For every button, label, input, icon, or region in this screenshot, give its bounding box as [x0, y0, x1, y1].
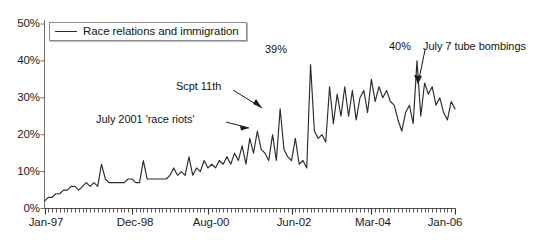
y-tick-label-50: 50%	[2, 17, 40, 29]
x-tick-label-jan-06: Jan-06	[412, 216, 478, 228]
race-riots-arrow-head	[240, 126, 249, 131]
chart-legend: Race relations and immigration	[49, 22, 247, 41]
x-tick-label-jan-97: Jan-97	[13, 216, 79, 228]
x-tick-label-jun-02: Jun-02	[261, 216, 327, 228]
y-tick-label-10: 10%	[2, 165, 40, 177]
series-group	[45, 61, 456, 201]
annotation-sept-11: Scpt 11th	[176, 80, 221, 92]
y-tick-label-40: 40%	[2, 54, 40, 66]
legend-line-swatch	[55, 31, 77, 32]
x-tick-label-dec-98: Dec-98	[102, 216, 168, 228]
annotation-tube-bombings: July 7 tube bombings	[423, 40, 526, 52]
y-tick-label-20: 20%	[2, 128, 40, 140]
annotation-race-riots: July 2001 'race riots'	[96, 113, 194, 125]
series-line-race-relations-and-immigration	[45, 61, 456, 201]
y-axis-ticks	[41, 24, 45, 209]
peak-label-39: 39%	[265, 43, 287, 55]
peak-label-40: 40%	[389, 40, 411, 52]
annotation-arrows	[226, 50, 425, 131]
y-tick-label-0: 0%	[2, 202, 40, 214]
legend-label: Race relations and immigration	[83, 25, 239, 37]
x-axis-ticks	[46, 209, 456, 215]
sept11-arrow-head	[253, 99, 262, 108]
x-tick-label-mar-04: Mar-04	[340, 216, 406, 228]
y-tick-label-30: 30%	[2, 91, 40, 103]
chart-container: 50% 40% 30% 20% 10% 0% Jan-97 Dec-98 Aug…	[0, 0, 552, 249]
x-tick-label-aug-00: Aug-00	[178, 216, 244, 228]
